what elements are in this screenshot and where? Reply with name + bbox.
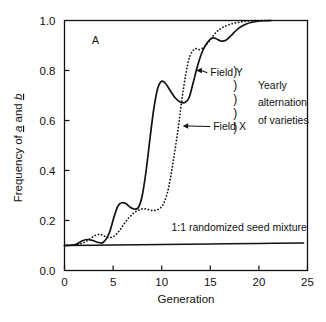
y-tick-label: 0.2 bbox=[40, 215, 56, 227]
y-axis-title-text: Frequency of a and b bbox=[12, 93, 24, 202]
annotation-seed-mixture: 1:1 randomized seed mixture bbox=[171, 221, 307, 233]
y-tick-label: 0.0 bbox=[40, 265, 56, 277]
x-tick-label: 0 bbox=[61, 276, 67, 288]
panel-label-a: A bbox=[92, 34, 99, 46]
annotation-brace-note-line-2: alternation bbox=[258, 96, 307, 108]
annotation-brace-note-line-1: Yearly bbox=[258, 79, 288, 91]
annotation-field-y: Field Y bbox=[210, 66, 243, 78]
annotation-leader-field-x bbox=[188, 126, 211, 127]
x-axis-title: Generation bbox=[158, 293, 215, 305]
x-tick-label: 25 bbox=[301, 276, 314, 288]
annotation-field-x: Field X bbox=[213, 120, 246, 132]
y-tick-label: 0.8 bbox=[40, 65, 56, 77]
y-tick-label: 1.0 bbox=[40, 15, 56, 27]
x-tick-label: 5 bbox=[110, 276, 116, 288]
brace-segment: ) bbox=[233, 64, 237, 78]
annotation-brace-note-line-3: of varieties bbox=[258, 114, 309, 126]
brace-segment: ) bbox=[233, 92, 237, 106]
x-tick-label: 20 bbox=[253, 276, 266, 288]
brace-segment: ) bbox=[233, 106, 237, 120]
y-tick-label: 0.6 bbox=[40, 115, 56, 127]
brace-segment: ) bbox=[233, 120, 237, 134]
y-axis-title: Frequency of a and b bbox=[12, 93, 24, 202]
brace-segment: ) bbox=[233, 78, 237, 92]
chart-figure: 0510152025 0.00.20.40.60.81.0 A Generati… bbox=[0, 0, 326, 322]
x-tick-label: 15 bbox=[204, 276, 217, 288]
y-tick-label: 0.4 bbox=[40, 165, 57, 177]
x-tick-label: 10 bbox=[155, 276, 168, 288]
